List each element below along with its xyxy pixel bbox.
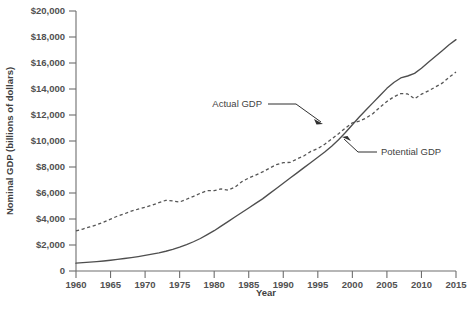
annotation-label-actual-gdp: Actual GDP [212,98,262,109]
x-axis-title: Year [256,287,276,298]
arrow-head-potential-gdp [342,136,351,141]
y-tick-label: $14,000 [31,83,65,94]
x-tick-label: 2005 [376,279,398,290]
annotation-label-potential-gdp: Potential GDP [381,146,441,157]
chart-canvas: 0$2,000$4,000$6,000$8,000$10,000$12,000$… [0,0,475,321]
y-axis-title: Nominal GDP (billions of dollars) [4,67,15,215]
x-tick-label: 2000 [342,279,363,290]
y-tick-marks [69,11,76,271]
x-tick-label: 1975 [169,279,191,290]
x-tick-label: 1970 [135,279,156,290]
y-tick-label: $10,000 [31,135,65,146]
x-tick-label: 2010 [411,279,432,290]
y-axis: 0$2,000$4,000$6,000$8,000$10,000$12,000$… [31,5,76,276]
y-tick-label: $4,000 [36,213,65,224]
y-tick-label: $12,000 [31,109,65,120]
y-tick-label: 0 [60,265,65,276]
y-tick-label: $18,000 [31,31,65,42]
x-tick-label: 1960 [65,279,86,290]
x-tick-label: 1995 [307,279,329,290]
y-tick-label: $8,000 [36,161,65,172]
y-tick-label: $2,000 [36,239,65,250]
y-tick-label: $20,000 [31,5,65,16]
x-tick-marks [76,271,456,278]
annotation-potential-gdp: Potential GDP [342,136,441,157]
x-tick-label: 2015 [445,279,467,290]
annotation-actual-gdp: Actual GDP [212,98,323,125]
y-tick-label: $16,000 [31,57,65,68]
y-tick-labels: 0$2,000$4,000$6,000$8,000$10,000$12,000$… [31,5,65,276]
x-tick-label: 1980 [204,279,225,290]
x-tick-label: 1965 [100,279,122,290]
gdp-chart-figure: 0$2,000$4,000$6,000$8,000$10,000$12,000$… [0,0,475,321]
y-tick-label: $6,000 [36,187,65,198]
